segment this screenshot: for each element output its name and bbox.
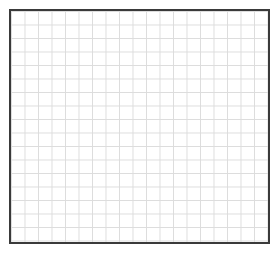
grid-panel bbox=[0, 0, 280, 254]
grid-plot-area[interactable] bbox=[11, 11, 268, 242]
